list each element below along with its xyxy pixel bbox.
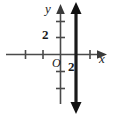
- y-axis-label: y: [45, 2, 51, 15]
- graph-arrow-down-icon: [71, 102, 82, 114]
- origin-label: O: [52, 57, 61, 69]
- graph-line-x-equals-2: [71, 2, 82, 114]
- y-axis-arrow-icon: [56, 4, 65, 14]
- x-line-label-2: 2: [68, 60, 75, 73]
- x-axis-label: x: [99, 52, 105, 65]
- coordinate-plane-figure: y x O 2 2: [0, 0, 114, 116]
- graph-arrow-up-icon: [71, 2, 82, 14]
- y-tick-label-2: 2: [42, 28, 49, 41]
